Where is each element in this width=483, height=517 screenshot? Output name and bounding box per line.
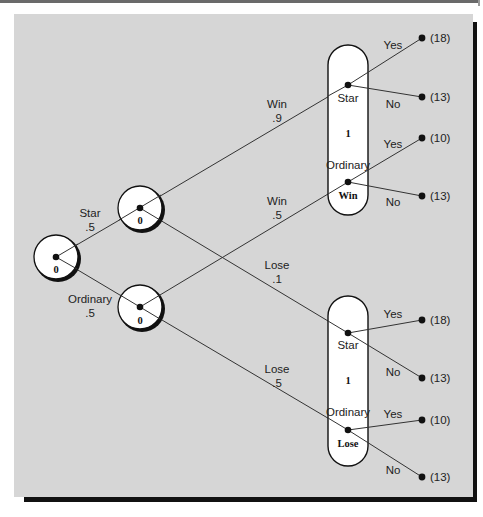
choice-label: No: [386, 366, 401, 378]
choice-label: Yes: [384, 308, 403, 320]
decision-tree-canvas: 0 0 0 Star 1 Ordinary Win: [0, 0, 483, 517]
decision-point-icon: [345, 330, 352, 337]
top-border: [0, 0, 478, 3]
win-oval-state-ordinary: Ordinary: [326, 159, 370, 171]
terminal-point-icon: [419, 135, 426, 142]
terminal-point-icon: [419, 417, 426, 424]
terminal-point-icon: [419, 35, 426, 42]
lose-oval-title: Lose: [338, 438, 359, 449]
payoff-value: (18): [430, 314, 451, 326]
panel-shadow-right: [473, 22, 477, 502]
decision-point-icon: [345, 179, 352, 186]
branch-prob-ordinary: .5: [85, 307, 95, 319]
lose-oval-state-star: Star: [337, 339, 358, 351]
lose-oval-value: 1: [345, 375, 350, 386]
payoff-value: (18): [430, 32, 451, 44]
terminal-point-icon: [419, 474, 426, 481]
payoff-value: (13): [430, 471, 451, 483]
terminal-point-icon: [419, 317, 426, 324]
win-oval-value: 1: [345, 128, 350, 139]
win-oval-title: Win: [338, 190, 357, 201]
choice-label: Yes: [384, 39, 403, 51]
chance-point-icon: [53, 254, 60, 261]
branch-label-star-lose: Lose: [265, 259, 290, 271]
payoff-value: (10): [430, 132, 451, 144]
lose-oval-state-ordinary: Ordinary: [326, 406, 370, 418]
top-border-corner: [478, 0, 480, 6]
choice-label: No: [386, 98, 401, 110]
payoff-value: (13): [430, 190, 451, 202]
branch-prob-star-lose: .1: [272, 273, 282, 285]
branch-label-ordinary: Ordinary: [68, 293, 112, 305]
choice-label: Yes: [384, 138, 403, 150]
decision-tree-figure: 0 0 0 Star 1 Ordinary Win: [0, 0, 483, 517]
branch-prob-star: .5: [85, 221, 95, 233]
chance-point-icon: [137, 304, 144, 311]
payoff-value: (13): [430, 91, 451, 103]
decision-point-icon: [345, 82, 352, 89]
choice-label: Yes: [384, 408, 403, 420]
star-node-value: 0: [137, 215, 142, 226]
decision-point-icon: [345, 427, 352, 434]
branch-prob-ordinary-win: .5: [272, 209, 282, 221]
branch-prob-ordinary-lose: .5: [272, 377, 282, 389]
payoff-value: (13): [430, 372, 451, 384]
terminal-point-icon: [419, 193, 426, 200]
chance-point-icon: [137, 205, 144, 212]
branch-label-star: Star: [79, 207, 100, 219]
branch-prob-star-win: .9: [272, 112, 282, 124]
root-node-value: 0: [53, 264, 58, 275]
win-oval-state-star: Star: [337, 92, 358, 104]
payoff-value: (10): [430, 414, 451, 426]
terminal-point-icon: [419, 375, 426, 382]
choice-label: No: [386, 464, 401, 476]
terminal-point-icon: [419, 94, 426, 101]
branch-label-ordinary-win: Win: [267, 195, 287, 207]
diagram-panel: [14, 14, 473, 497]
branch-label-star-win: Win: [267, 98, 287, 110]
ordinary-node-value: 0: [137, 315, 142, 326]
choice-label: No: [386, 196, 401, 208]
panel-shadow-bottom: [24, 497, 477, 502]
branch-label-ordinary-lose: Lose: [265, 363, 290, 375]
